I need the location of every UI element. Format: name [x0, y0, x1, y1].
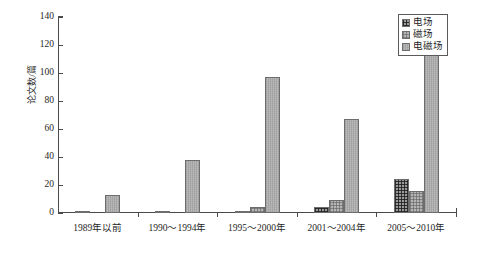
- bar: [105, 195, 120, 213]
- legend-swatch-icon: [402, 19, 410, 27]
- legend-label: 电磁场: [413, 42, 443, 52]
- legend-swatch-icon: [402, 43, 410, 51]
- y-axis-tick: [58, 129, 63, 130]
- x-axis-tick: [138, 213, 139, 217]
- legend-item: 电场: [402, 17, 443, 29]
- bar: [265, 77, 280, 213]
- bar-chart: 论文数/篇 020406080100120140 1989年以前1990～199…: [0, 0, 480, 260]
- bar: [155, 211, 170, 213]
- x-axis-tick-label: 2005～2010年: [387, 220, 445, 234]
- x-axis-tick-label: 1989年以前: [73, 220, 122, 234]
- chart-legend: 电场 磁场 电磁场: [398, 14, 448, 56]
- x-axis-tick-label: 2001～2004年: [308, 220, 366, 234]
- x-axis-tick-label: 1990～1994年: [148, 220, 206, 234]
- x-axis-tick-label: 1995～2000年: [228, 220, 286, 234]
- x-axis-tick: [376, 213, 377, 217]
- bar: [409, 191, 424, 213]
- x-axis-tick: [297, 213, 298, 217]
- bar: [75, 211, 90, 213]
- bar: [235, 211, 250, 213]
- bar: [250, 207, 265, 213]
- legend-item: 磁场: [402, 29, 443, 41]
- y-axis-tick: [58, 185, 63, 186]
- bar: [185, 160, 200, 213]
- bar: [394, 179, 409, 213]
- legend-label: 磁场: [413, 30, 433, 40]
- y-axis-title: 论文数/篇: [25, 47, 38, 123]
- y-axis-tick-label: 20: [6, 180, 54, 190]
- bar: [314, 207, 329, 213]
- bar: [424, 39, 439, 213]
- x-axis-tick: [456, 213, 457, 217]
- y-axis-tick-label: 120: [6, 40, 54, 50]
- x-axis-tick: [217, 213, 218, 217]
- y-axis-tick: [58, 101, 63, 102]
- y-axis-tick: [58, 45, 63, 46]
- y-axis-tick-label: 40: [6, 152, 54, 162]
- legend-item: 电磁场: [402, 41, 443, 53]
- legend-label: 电场: [413, 18, 433, 28]
- y-axis-tick: [58, 17, 63, 18]
- legend-swatch-icon: [402, 31, 410, 39]
- y-axis-tick-label: 0: [6, 208, 54, 218]
- y-axis-tick-label: 140: [6, 12, 54, 22]
- y-axis-tick-label: 60: [6, 124, 54, 134]
- y-axis-tick: [58, 73, 63, 74]
- y-axis-tick-label: 80: [6, 96, 54, 106]
- y-axis-tick-label: 100: [6, 68, 54, 78]
- y-axis-tick: [58, 157, 63, 158]
- bar: [329, 200, 344, 213]
- y-axis-tick: [58, 213, 63, 214]
- bar: [344, 119, 359, 213]
